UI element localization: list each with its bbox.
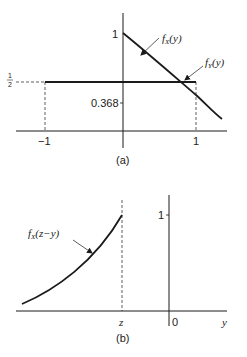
panel-a-fx-arrow <box>141 38 159 55</box>
panel-a-fx-label: fX(y) <box>162 32 182 46</box>
panel-a-fy-arrow <box>185 66 203 80</box>
panel-a-x-tick-neg1: −1 <box>38 135 51 147</box>
panel-a: 1 1 2 0.368 −1 1 (a) fX(y) fY(y) <box>7 13 227 166</box>
panel-a-fy-label: fY(y) <box>205 56 225 70</box>
panel-b-caption: (b) <box>116 332 129 344</box>
panel-a-half-num: 1 <box>8 72 12 79</box>
panel-a-caption: (a) <box>116 154 129 166</box>
panel-a-y-tick-1: 1 <box>112 28 118 40</box>
panel-b-x-label-z: z <box>118 316 124 328</box>
panel-b-axis-label-y: y <box>221 316 227 328</box>
panel-a-value-0368: 0.368 <box>91 97 119 109</box>
panel-b-fx-label: fX(z−y) <box>28 227 60 241</box>
panel-b-fx-arrow <box>73 240 92 253</box>
panel-a-half-den: 2 <box>8 81 12 88</box>
figure: 1 1 2 0.368 −1 1 (a) fX(y) fY(y) fX(z−y)… <box>0 0 247 357</box>
panel-a-fx-curve <box>123 33 222 119</box>
panel-b-x-label-zero: 0 <box>172 316 178 328</box>
panel-b-y-tick-1: 1 <box>158 209 164 221</box>
panel-a-x-tick-pos1: 1 <box>193 135 199 147</box>
panel-b: fX(z−y) 1 z 0 y (b) <box>16 195 227 344</box>
